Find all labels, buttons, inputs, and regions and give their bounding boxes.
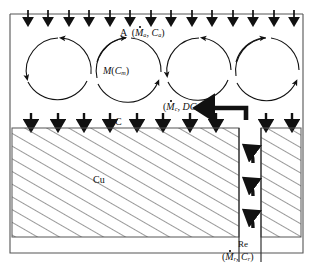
vortex-cell-1 xyxy=(26,38,91,100)
feed-arrow xyxy=(204,108,246,120)
label-crystal-flow: (Mc, DCm) xyxy=(163,102,204,113)
label-substrate: Cu xyxy=(93,175,105,185)
label-inflow: A (Ma, Ca) xyxy=(120,28,165,39)
middle-arrow-row xyxy=(31,113,292,126)
vortex-cell-3 xyxy=(167,38,231,100)
label-return-channel: Re xyxy=(238,240,248,249)
label-return-flow: (Mr, Cr) xyxy=(222,252,254,263)
top-arrow-row xyxy=(28,10,294,22)
diagram-canvas: A (Ma, Ca) M(Cm) (Mc, DCm) C Cu Re (Mr, … xyxy=(0,0,312,272)
hatched-substrate xyxy=(12,128,301,237)
channel-up-arrows xyxy=(249,149,253,228)
label-melt: M(Cm) xyxy=(103,66,129,77)
vortex-cell-4 xyxy=(236,38,299,101)
diagram-svg xyxy=(0,0,312,272)
label-concentration: C xyxy=(115,117,122,127)
